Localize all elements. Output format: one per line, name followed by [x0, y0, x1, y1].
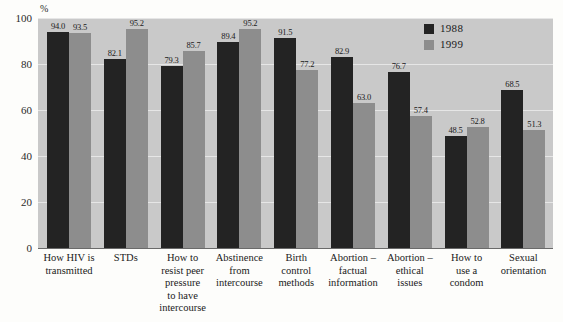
bar-value-label: 95.2 [233, 19, 267, 28]
bar-value-label: 91.5 [268, 28, 302, 37]
bar-1999-4 [296, 70, 318, 248]
y-axis-tick-80: 80 [2, 59, 32, 70]
legend: 19881999 [424, 22, 463, 54]
category-label-line: Sexual [491, 252, 555, 265]
category-label-line: pressure [151, 277, 215, 290]
category-label-5: Abortion –factualinformation [321, 252, 385, 290]
category-label-line: Abortion – [321, 252, 385, 265]
y-axis-unit-label: % [40, 4, 48, 14]
category-label-line: orientation [491, 265, 555, 278]
category-label-2: How toresist peerpressureto haveintercou… [151, 252, 215, 315]
category-label-line: How to [151, 252, 215, 265]
bar-value-label: 93.5 [63, 23, 97, 32]
category-label-line: methods [264, 277, 328, 290]
legend-item-1988[interactable]: 1988 [424, 22, 463, 35]
category-label-line: issues [378, 277, 442, 290]
y-axis-tick-0: 0 [2, 243, 32, 254]
bar-1988-6 [388, 72, 410, 248]
category-label-line: from [207, 265, 271, 278]
bar-1988-1 [104, 59, 126, 248]
bar-value-label: 89.4 [211, 32, 245, 41]
bar-value-label: 76.7 [382, 62, 416, 71]
legend-swatch-icon [424, 40, 434, 50]
category-label-line: ethical [378, 265, 442, 278]
bar-value-label: 52.8 [461, 117, 495, 126]
legend-swatch-icon [424, 24, 434, 34]
y-axis-tick-60: 60 [2, 105, 32, 116]
bar-value-label: 85.7 [177, 41, 211, 50]
category-label-8: Sexualorientation [491, 252, 555, 277]
bar-1988-8 [501, 90, 523, 248]
bar-value-label: 57.4 [404, 106, 438, 115]
bar-value-label: 82.9 [325, 47, 359, 56]
y-axis-tick-40: 40 [2, 151, 32, 162]
bar-value-label: 79.3 [155, 56, 189, 65]
bar-value-label: 82.1 [98, 49, 132, 58]
category-label-line: Abortion – [378, 252, 442, 265]
bar-1988-2 [161, 66, 183, 248]
category-label-line: factual [321, 265, 385, 278]
bar-1999-5 [353, 103, 375, 248]
category-label-3: Abstinencefromintercourse [207, 252, 271, 290]
category-label-7: How touse acondom [435, 252, 499, 290]
category-label-line: information [321, 277, 385, 290]
legend-label: 1999 [440, 38, 463, 51]
category-label-line: Abstinence [207, 252, 271, 265]
bar-value-label: 48.5 [439, 126, 473, 135]
category-label-line: STDs [94, 252, 158, 265]
category-label-line: condom [435, 277, 499, 290]
bar-value-label: 68.5 [495, 80, 529, 89]
bar-1988-5 [331, 57, 353, 248]
category-label-line: How to [435, 252, 499, 265]
category-label-line: transmitted [37, 265, 101, 278]
bar-1999-6 [410, 116, 432, 248]
bar-1999-1 [126, 29, 148, 248]
category-label-1: STDs [94, 252, 158, 265]
bar-value-label: 77.2 [290, 60, 324, 69]
category-label-line: to have [151, 290, 215, 303]
bar-1999-3 [239, 29, 261, 248]
legend-label: 1988 [440, 22, 463, 35]
bar-1988-7 [445, 136, 467, 248]
category-label-line: use a [435, 265, 499, 278]
x-axis-line [38, 248, 553, 249]
category-label-line: intercourse [151, 302, 215, 315]
category-label-line: Birth [264, 252, 328, 265]
bar-1999-8 [523, 130, 545, 248]
y-axis-tick-20: 20 [2, 197, 32, 208]
category-label-line: How HIV is [37, 252, 101, 265]
bar-1999-2 [183, 51, 205, 248]
category-label-line: control [264, 265, 328, 278]
category-label-0: How HIV istransmitted [37, 252, 101, 277]
bar-value-label: 63.0 [347, 93, 381, 102]
category-label-line: intercourse [207, 277, 271, 290]
legend-item-1999[interactable]: 1999 [424, 38, 463, 51]
category-label-6: Abortion –ethicalissues [378, 252, 442, 290]
category-label-line: resist peer [151, 265, 215, 278]
bar-value-label: 51.3 [517, 120, 551, 129]
bar-1999-0 [69, 33, 91, 248]
bar-1988-3 [217, 42, 239, 248]
bar-1999-7 [467, 127, 489, 248]
y-axis-tick-100: 100 [2, 13, 32, 24]
bar-1988-0 [47, 32, 69, 248]
gridline-100 [38, 18, 553, 19]
category-label-4: Birthcontrolmethods [264, 252, 328, 290]
bar-chart: % 100806040200 94.093.582.195.279.385.78… [0, 0, 563, 322]
bar-value-label: 95.2 [120, 19, 154, 28]
